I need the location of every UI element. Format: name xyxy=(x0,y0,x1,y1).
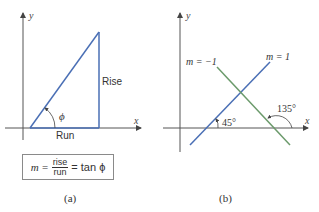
panel-b-graph xyxy=(163,13,308,152)
line-positive-label: m = 1 xyxy=(266,51,290,62)
formula-numerator: rise xyxy=(52,158,69,168)
caption-a: (a) xyxy=(64,192,76,204)
x-axis-label-a: x xyxy=(133,115,139,126)
formula-fraction: rise run xyxy=(52,158,69,177)
line-negative-label: m = −1 xyxy=(186,56,217,67)
angle-45-arc xyxy=(216,119,218,128)
formula-lhs: m = xyxy=(31,161,49,173)
angle-phi-label: ϕ xyxy=(59,110,65,122)
angle-135-label: 135° xyxy=(277,103,296,114)
formula-denominator: run xyxy=(54,168,67,177)
rise-label: Rise xyxy=(102,76,122,87)
x-axis-label-b: x xyxy=(304,115,310,126)
formula-rhs: = tan ϕ xyxy=(71,161,105,173)
slope-formula-box: m = rise run = tan ϕ xyxy=(22,154,114,180)
run-label: Run xyxy=(56,130,74,141)
caption-b: (b) xyxy=(219,192,232,204)
line-slope-positive xyxy=(190,62,270,145)
y-axis-label-b: y xyxy=(185,10,191,21)
y-axis-label-a: y xyxy=(28,10,34,21)
angle-phi-arc xyxy=(45,108,55,128)
diagram-canvas: y x Rise Run ϕ y x m = −1 m = 1 135° 45° xyxy=(0,0,319,212)
angle-45-label: 45° xyxy=(222,117,236,128)
